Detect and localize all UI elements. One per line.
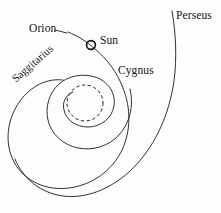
galactic-core-dashed-circle xyxy=(67,85,103,121)
label-cygnus: Cygnus xyxy=(118,65,154,77)
orion-leader-line xyxy=(55,30,67,33)
sun-marker-icon xyxy=(87,41,96,50)
perseus-outer-arm xyxy=(15,11,176,197)
galaxy-spiral-diagram: Orion Sun Cygnus Perseus Saggitarius xyxy=(0,0,221,213)
label-perseus: Perseus xyxy=(176,10,212,22)
label-orion: Orion xyxy=(29,23,56,35)
label-sun: Sun xyxy=(100,35,118,47)
inner-spiral-arm xyxy=(47,75,131,149)
